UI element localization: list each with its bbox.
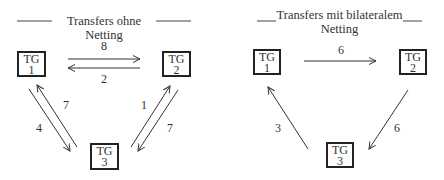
- title-line-2: Netting: [276, 22, 403, 36]
- edge-label-tg2-tg3: 7: [167, 121, 173, 136]
- left-diagram-title: Transfers ohne Netting: [52, 14, 156, 42]
- node-number: 3: [328, 156, 352, 167]
- right-diagram-title: Transfers mit bilateralem Netting: [276, 8, 403, 36]
- arrow-tg3-tg2: [131, 86, 170, 147]
- edge-label-tg3-tg1: 3: [275, 121, 281, 136]
- edge-label-tg3-tg2: 1: [141, 98, 147, 113]
- node-tg1: TG 1: [17, 51, 46, 77]
- title-line-1: Transfers mit bilateralem: [276, 8, 403, 22]
- node-tg3: TG 3: [326, 142, 354, 168]
- node-number: 2: [164, 65, 189, 76]
- edge-label-tg2-tg3: 6: [394, 121, 400, 136]
- arrow-tg3-tg1: [37, 85, 77, 147]
- edge-label-tg1-tg2: 6: [338, 43, 344, 58]
- node-number: 1: [255, 63, 279, 74]
- node-tg2: TG 2: [162, 51, 191, 77]
- edge-label-tg2-tg1: 2: [101, 72, 107, 87]
- node-number: 3: [92, 157, 117, 168]
- node-number: 2: [401, 63, 425, 74]
- arrow-tg3-tg1: [268, 87, 308, 149]
- node-tg1: TG 1: [253, 49, 281, 75]
- edge-label-tg1-tg3: 4: [36, 121, 42, 136]
- node-tg2: TG 2: [399, 49, 427, 75]
- node-tg3: TG 3: [90, 143, 119, 170]
- edge-label-tg3-tg1: 7: [63, 98, 69, 113]
- edge-label-tg1-tg2: 8: [101, 39, 107, 54]
- arrow-tg2-tg3: [369, 90, 408, 149]
- node-number: 1: [19, 65, 44, 76]
